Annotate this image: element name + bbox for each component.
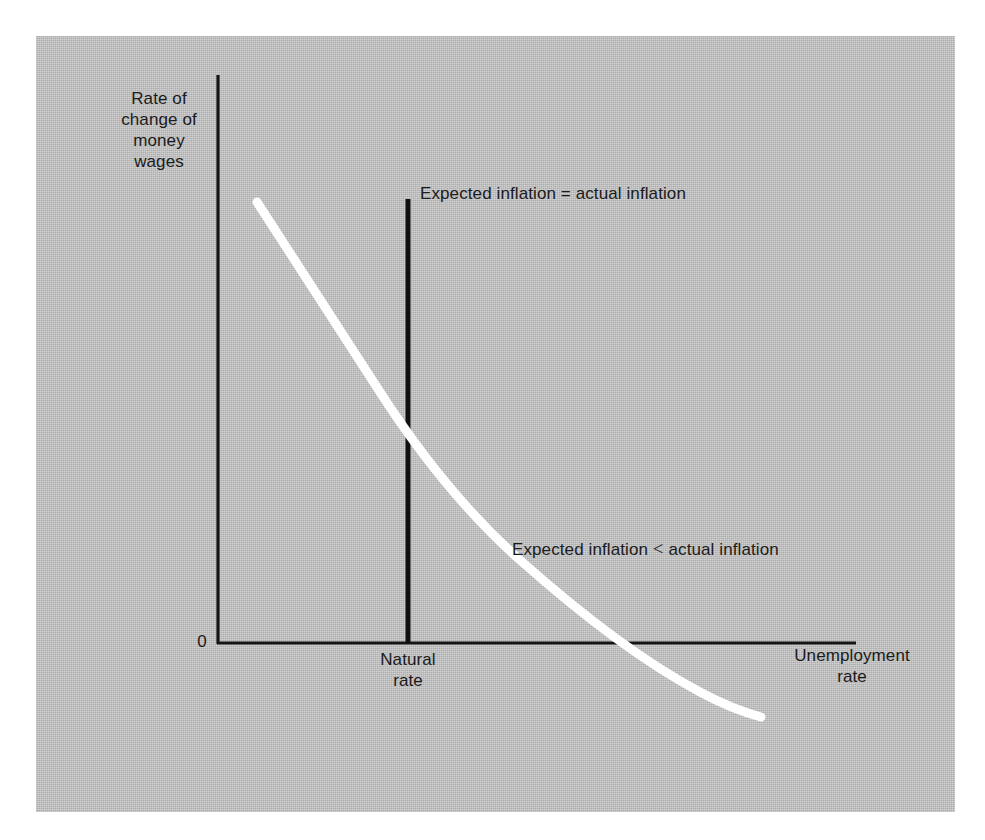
annotation-expected-equals-actual: Expected inflation = actual inflation [420, 183, 686, 204]
annotation-less-prefix: Expected inflation [512, 540, 653, 559]
annotation-expected-less-than-actual: Expected inflation < actual inflation [512, 538, 779, 560]
annotation-less-suffix: actual inflation [664, 540, 779, 559]
x-axis-title: Unemployment rate [762, 645, 942, 687]
figure-page: Rate of change of money wages 0 Natural … [0, 0, 985, 840]
y-axis-title: Rate of change of money wages [110, 88, 208, 172]
origin-label: 0 [193, 631, 211, 652]
natural-rate-label: Natural rate [348, 649, 468, 691]
less-than-symbol: < [653, 538, 664, 559]
